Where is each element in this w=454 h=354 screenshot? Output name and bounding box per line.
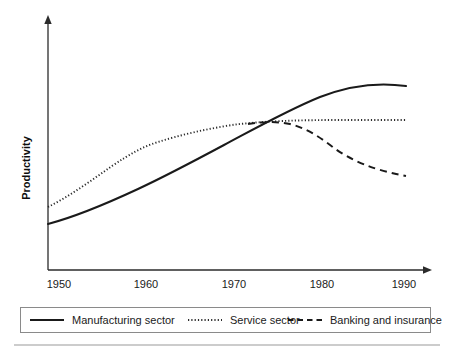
chart-page: Productivity 1950 1960 1970 198 [0, 0, 454, 354]
y-axis-label: Productivity [20, 135, 32, 199]
x-tick-label-1970: 1970 [222, 278, 246, 290]
series-line-service-sector [48, 120, 406, 207]
series-line-manufacturing-sector [48, 84, 406, 224]
x-tick-label-1960: 1960 [134, 278, 158, 290]
series-group [48, 84, 406, 224]
productivity-line-chart: Productivity 1950 1960 1970 198 [0, 0, 454, 354]
legend-label-banking-and-insurance: Banking and insurance [330, 314, 442, 326]
x-tick-labels: 1950 1960 1970 1980 1990 [47, 278, 416, 290]
chart-legend: Manufacturing sector Service sector Bank… [21, 308, 442, 333]
x-tick-label-1980: 1980 [310, 278, 334, 290]
series-line-banking-and-insurance [248, 122, 406, 176]
x-tick-label-1990: 1990 [392, 278, 416, 290]
axes-group [44, 15, 432, 274]
x-tick-label-1950: 1950 [47, 278, 71, 290]
y-axis-arrow-icon [44, 15, 51, 24]
legend-label-manufacturing-sector: Manufacturing sector [72, 314, 175, 326]
x-axis-arrow-icon [423, 266, 432, 273]
